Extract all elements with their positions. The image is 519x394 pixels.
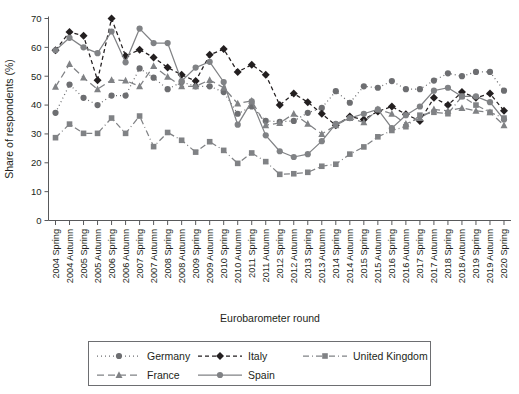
data-point [137,113,143,119]
y-tick-label-50: 50 [31,71,42,82]
data-point [375,85,381,91]
x-tick-label-12: 2010 Spring [219,229,229,279]
x-tick-label-30: 2019 Spring [471,229,481,279]
x-tick-label-5: 2006 Autumn [121,229,131,283]
legend-marker-square-icon [322,353,328,359]
x-tick-label-27: 2017 Autumn [429,229,439,283]
data-point [361,144,367,150]
x-tick-label-23: 2015 Autumn [373,229,383,283]
eurobarometer-line-chart: 010203040506070 2004 Spring2004 Autumn20… [0,0,519,394]
legend-label: Germany [147,350,191,362]
data-point [193,64,199,70]
x-tick-label-15: 2011 Autumn [261,229,271,282]
y-tick-label-20: 20 [31,157,42,168]
x-tick-label-2: 2005 Spring [79,229,89,279]
x-tick-label-7: 2007 Autumn [149,229,159,283]
data-point [473,69,479,75]
data-point [95,131,101,137]
x-tick-label-4: 2006 Spring [107,229,117,279]
x-tick-label-28: 2018 Spring [443,229,453,279]
data-point [347,100,353,106]
data-point [165,130,171,136]
data-point [235,161,241,167]
x-tick-label-17: 2012 Autumn [289,229,299,283]
data-point [389,125,395,131]
data-point [305,151,311,157]
x-tick-label-11: 2009 Autumn [205,229,215,283]
data-point [445,85,451,91]
x-tick-label-0: 2004 Spring [51,229,61,279]
data-point [66,35,72,41]
data-point [361,111,367,117]
data-point [123,131,129,137]
data-point [347,115,353,121]
data-point [108,28,114,34]
data-point [81,131,87,137]
data-point [52,110,58,116]
x-tick-label-26: 2017 Spring [415,229,425,279]
data-point [207,139,213,145]
data-point [235,111,241,117]
legend-marker-circle-icon [116,353,122,359]
y-tick-label-70: 70 [31,13,42,24]
x-tick-label-22: 2015 Spring [359,229,369,279]
legend-marker-circle-icon [217,372,223,378]
data-point [501,88,507,94]
data-point [221,79,227,85]
data-point [361,83,367,89]
data-point [375,106,381,112]
x-tick-label-18: 2013 Spring [303,229,313,279]
data-point [122,59,128,65]
data-point [291,118,297,124]
data-point [417,103,423,109]
data-point [319,163,325,169]
y-tick-label-60: 60 [31,42,42,53]
x-tick-label-3: 2005 Autumn [93,229,103,283]
data-point [94,102,100,108]
data-point [151,40,157,46]
data-point [52,47,58,53]
data-point [67,121,73,127]
data-point [207,59,213,65]
data-point [375,134,381,140]
data-point [277,172,283,178]
data-point [431,77,437,83]
chart-legend: GermanyItalyUnited KingdomFranceSpain [89,342,431,386]
data-point [136,65,142,71]
x-tick-label-20: 2014 Spring [331,229,341,279]
data-point [277,148,283,154]
x-tick-label-1: 2004 Autumn [65,229,75,283]
data-point [501,116,507,122]
data-point [165,86,171,92]
data-point [389,78,395,84]
data-point [151,144,157,150]
data-point [108,92,114,98]
data-point [80,95,86,101]
data-point [136,26,142,32]
data-point [235,122,241,128]
data-point [263,159,269,165]
data-point [319,138,325,144]
data-point [165,40,171,46]
x-tick-label-9: 2008 Autumn [177,229,187,283]
data-point [417,86,423,92]
chart-background [0,0,519,394]
x-tick-label-16: 2012 Spring [275,229,285,279]
x-tick-label-31: 2019 Autumn [485,229,495,283]
data-point [207,83,213,89]
x-tick-label-24: 2016 Spring [387,229,397,279]
data-point [94,50,100,56]
y-tick-label-30: 30 [31,128,42,139]
x-tick-label-13: 2010 Autumn [233,229,243,283]
x-tick-label-29: 2018 Autumn [457,229,467,283]
data-point [53,135,59,141]
y-tick-label-40: 40 [31,99,42,110]
data-point [221,148,227,154]
data-point [291,171,297,177]
y-axis-title: Share of respondents (%) [3,59,15,179]
x-tick-label-21: 2014 Autumn [345,229,355,283]
data-point [66,81,72,87]
x-axis-title: Eurobarometer round [220,312,320,324]
data-point [473,93,479,99]
legend-label: Italy [248,350,268,362]
